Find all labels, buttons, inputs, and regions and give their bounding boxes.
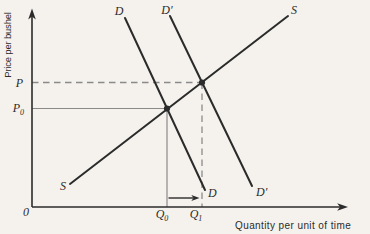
price-new-label: P: [15, 76, 24, 90]
equilibrium-initial-dot: [164, 105, 170, 111]
equilibrium-new-dot: [199, 79, 205, 85]
quantity-initial-letter: Q: [156, 207, 165, 221]
demand-top-label: D: [114, 4, 124, 18]
x-axis-title: Quantity per unit of time: [235, 220, 351, 231]
demand-bottom-label: D: [207, 186, 217, 200]
demand-shifted-curve: [170, 16, 252, 186]
quantity-initial-label: Q0: [156, 207, 169, 223]
price-initial-subscript: 0: [20, 108, 24, 117]
supply-bottom-label: S: [60, 179, 66, 193]
price-initial-label: P0: [12, 101, 24, 117]
demand-curve: [125, 18, 205, 190]
supply-curve: [70, 16, 288, 184]
y-axis-title: Price per bushel: [2, 12, 13, 78]
origin-label: 0: [23, 205, 29, 219]
quantity-new-label: Q1: [190, 207, 203, 223]
demand-shifted-bottom-label: D′: [255, 185, 268, 199]
quantity-new-subscript: 1: [198, 214, 202, 223]
quantity-initial-subscript: 0: [164, 214, 168, 223]
demand-shifted-top-label: D′: [160, 3, 173, 17]
supply-demand-figure: D D′ S S D D′ P P0 0 Q0 Q1 Price per bus…: [0, 0, 370, 234]
supply-top-label: S: [291, 3, 297, 17]
figure-canvas: D D′ S S D D′ P P0 0 Q0 Q1 Price per bus…: [0, 0, 370, 234]
quantity-new-letter: Q: [190, 207, 199, 221]
